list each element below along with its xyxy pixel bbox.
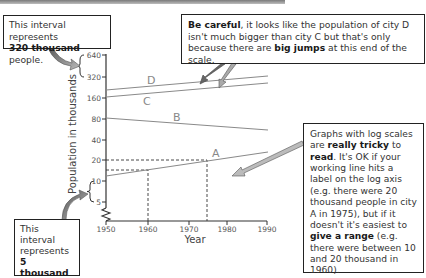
svg-text:1990: 1990 <box>257 225 276 234</box>
series-labels: A B C D <box>143 74 220 160</box>
series-d-line <box>106 76 268 90</box>
svg-text:1950: 1950 <box>96 225 115 234</box>
svg-text:20: 20 <box>91 156 101 165</box>
series-lines <box>106 76 268 176</box>
y-axis-title: Population in thousands <box>67 74 78 194</box>
x-tick-labels: 1950 1960 1970 1980 1990 <box>96 225 276 234</box>
callout-320-thousand: This interval represents 320 thousand pe… <box>3 15 111 49</box>
svg-text:5: 5 <box>96 198 101 207</box>
callout-log-scales: Graphs with log scales are really tricky… <box>303 123 424 273</box>
svg-text:A: A <box>212 147 220 160</box>
svg-text:80: 80 <box>91 115 101 124</box>
svg-text:40: 40 <box>91 136 101 145</box>
svg-text:D: D <box>147 74 155 87</box>
dashed-guides <box>106 160 207 221</box>
x-axis-title: Year <box>183 234 206 245</box>
svg-text:1980: 1980 <box>217 225 236 234</box>
y-tick-labels: 640 320 160 80 40 20 10 5 <box>87 51 102 207</box>
svg-text:320: 320 <box>87 73 102 82</box>
svg-text:640: 640 <box>87 51 102 60</box>
callout-be-careful: Be careful, it looks like the population… <box>181 14 425 64</box>
svg-text:1970: 1970 <box>179 225 198 234</box>
callout-5-thousand: This interval represents 5 thousand peop… <box>14 219 80 276</box>
svg-text:C: C <box>143 95 151 108</box>
svg-text:160: 160 <box>87 94 102 103</box>
arrow-to-a-icon <box>232 141 304 176</box>
axis-break-icon <box>102 208 110 221</box>
svg-text:B: B <box>173 111 181 124</box>
svg-text:1960: 1960 <box>138 225 157 234</box>
series-b-line <box>106 118 268 130</box>
series-c-line <box>106 83 268 97</box>
